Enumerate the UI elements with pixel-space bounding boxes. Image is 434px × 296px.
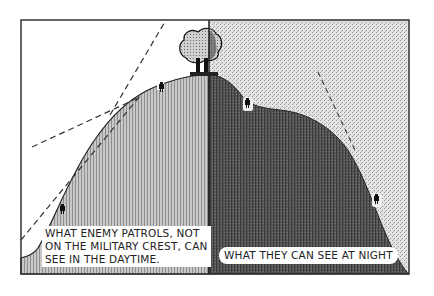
day-caption-line-1: WHAT ENEMY PATROLS, NOT [45,227,208,240]
night-caption: WHAT THEY CAN SEE AT NIGHT [219,247,398,264]
soldier-icon [243,97,253,111]
day-caption-line-3: SEE IN THE DAYTIME. [45,253,208,266]
soldier-icon [372,193,382,207]
day-caption: WHAT ENEMY PATROLS, NOT ON THE MILITARY … [42,226,211,267]
day-caption-line-2: ON THE MILITARY CREST, CAN [45,240,208,253]
night-panel [209,20,409,274]
